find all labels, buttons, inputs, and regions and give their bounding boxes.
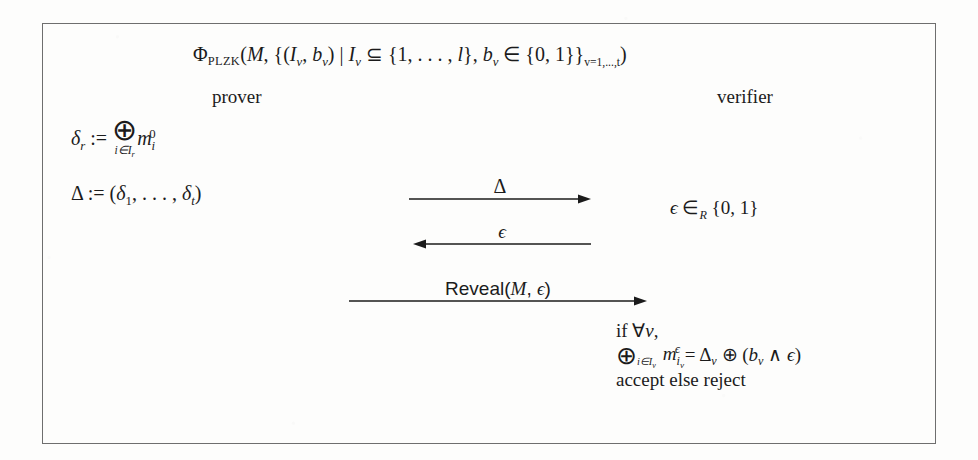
family-index-subscript: v=1,...,t [584, 56, 620, 69]
delta-first: δ [116, 182, 125, 204]
oplus-glyph: ⊕ [112, 116, 137, 144]
share-m-superscript: 0 [149, 127, 155, 141]
title-close-paren: ) [620, 43, 627, 65]
if-keyword: if [616, 320, 632, 341]
share-m-subscript: i [152, 139, 156, 153]
binary-set-2: {0, 1} [707, 197, 759, 218]
message-reveal-row: Reveal(M, ϵ) [348, 264, 648, 306]
big-oplus-operator: ⊕ i∈Ir [112, 116, 137, 156]
delta-symbol: Δ [71, 182, 83, 204]
oplus-glyph-check: ⊕ [616, 344, 637, 367]
check-bit-b: b [749, 343, 759, 364]
prover-label: prover [212, 86, 262, 108]
oplus-limit: i∈Ir [112, 145, 137, 157]
phi-subscript-plzk: PLZK [208, 54, 241, 68]
message-epsilon-row: ϵ [412, 209, 592, 249]
in-random-symbol: ∈ [678, 197, 700, 218]
delta-last: δ [182, 182, 191, 204]
protocol-title-formula: ΦPLZK(M, {(Iv, bv) | Iv ⊆ {1, . . . , l}… [193, 42, 627, 69]
title-divider: ) | [328, 43, 349, 65]
verifier-check-line-if: if ∀v, [616, 321, 801, 342]
title-separator-1: , {( [264, 43, 290, 65]
check-epsilon: ϵ [787, 343, 795, 364]
equals-operator: = [680, 343, 699, 364]
in-random-subscript: R [699, 208, 706, 222]
index-range-close: }, [463, 43, 483, 65]
big-oplus-operator-check: ⊕ [616, 344, 637, 367]
element-of-symbol: ∈ [498, 43, 525, 65]
delta-ellipsis: , . . . , [132, 182, 182, 204]
index-range-open: {1, . . . , [388, 43, 458, 65]
forall-variable-v: v [645, 320, 653, 341]
if-line-comma: , [654, 320, 659, 341]
phi-symbol: Φ [193, 43, 208, 65]
open-paren: ( [240, 43, 247, 65]
check-delta-symbol: Δ [699, 343, 711, 364]
verifier-check-line-decision: accept else reject [616, 370, 801, 391]
message-variable-m: M [247, 43, 264, 65]
forall-symbol: ∀ [632, 320, 645, 341]
message-epsilon-arrow [412, 239, 592, 249]
prover-step-delta-r: δr := ⊕ i∈Ir mi0 [71, 116, 156, 156]
bit-b-2: b [483, 43, 493, 65]
binary-set: {0, 1}} [525, 43, 584, 65]
message-reveal-arrow [348, 296, 648, 306]
delta-r-symbol: δ [71, 127, 80, 149]
verifier-check-line-equation: ⊕ i∈Ivmivϵ = Δv ⊕ (bv ∧ ϵ) [616, 344, 801, 367]
oplus-limit-subscript: r [132, 150, 135, 159]
message-delta-arrow [408, 194, 592, 204]
delta-tuple-close: ) [195, 182, 202, 204]
assign-operator-2: := ( [83, 182, 117, 204]
and-operator: ∧ [764, 343, 788, 364]
assign-operator: := [85, 127, 112, 149]
oplus-check-limit: i∈Iv [637, 356, 656, 367]
epsilon-symbol: ϵ [670, 197, 678, 218]
message-delta-row: Δ [408, 164, 592, 204]
xor-operator: ⊕ [717, 343, 743, 364]
verifier-check-block: if ∀v, ⊕ i∈Ivmivϵ = Δv ⊕ (bv ∧ ϵ) accept… [616, 321, 801, 390]
bit-b: b [312, 43, 322, 65]
prover-step-delta-tuple: Δ := (δ1, . . . , δt) [71, 182, 202, 205]
verifier-label: verifier [717, 86, 773, 108]
protocol-diagram-box: ΦPLZK(M, {(Iv, bv) | Iv ⊆ {1, . . . , l}… [42, 23, 936, 444]
title-comma-1: , [302, 43, 312, 65]
subseteq-symbol: ⊆ [361, 43, 388, 65]
check-close-paren: ) [795, 343, 801, 364]
verifier-random-bit: ϵ ∈R {0, 1} [670, 196, 758, 219]
